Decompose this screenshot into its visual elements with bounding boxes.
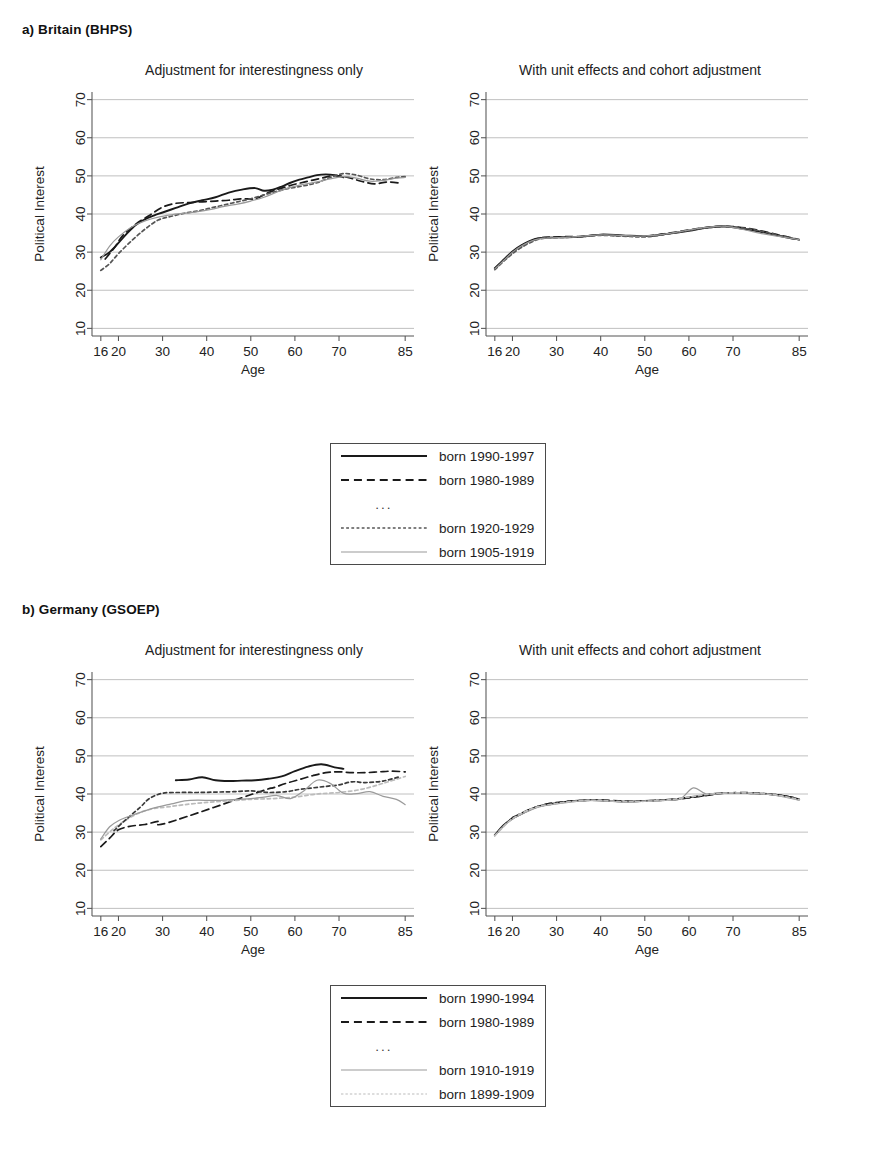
series-line [101, 776, 405, 839]
y-axis-label: Political Interest [426, 746, 441, 842]
x-axis-label: Age [241, 362, 265, 377]
y-tick-label: 50 [467, 168, 482, 183]
x-tick-label: 20 [505, 344, 520, 359]
legend-label: born 1910-1919 [439, 1063, 534, 1078]
legend-item[interactable]: born 1990-1994 [331, 986, 545, 1010]
x-tick-label: 85 [792, 344, 807, 359]
legend-item[interactable]: born 1899-1909 [331, 1082, 545, 1106]
x-tick-label: 85 [792, 924, 807, 939]
series-line [495, 793, 799, 836]
legend-item[interactable]: born 1980-1989 [331, 468, 545, 492]
x-tick-label: 60 [287, 344, 302, 359]
x-tick-label: 50 [637, 344, 652, 359]
y-tick-label: 40 [467, 206, 482, 221]
chart-canvas: 102030405060701620304050607085AgePolitic… [30, 82, 430, 382]
legend-label: born 1920-1929 [439, 521, 534, 536]
y-tick-label: 10 [467, 901, 482, 916]
series-line [101, 174, 344, 257]
legend-line-sample [341, 522, 427, 534]
x-tick-label: 50 [243, 924, 258, 939]
series-line [512, 792, 794, 817]
plot-germany-right: 102030405060701620304050607085AgePolitic… [424, 662, 824, 962]
y-tick-label: 30 [73, 245, 88, 260]
x-tick-label: 85 [398, 924, 413, 939]
x-tick-label: 16 [93, 344, 108, 359]
y-tick-label: 20 [467, 283, 482, 298]
x-tick-label: 85 [398, 344, 413, 359]
y-tick-label: 10 [73, 901, 88, 916]
x-tick-label: 70 [725, 344, 740, 359]
panel-title-britain-left: Adjustment for interestingness only [84, 62, 424, 78]
legend-line-sample [341, 1016, 427, 1028]
chart-canvas: 102030405060701620304050607085AgePolitic… [424, 662, 824, 962]
y-tick-label: 20 [73, 863, 88, 878]
series-line [495, 793, 799, 835]
series-line [176, 764, 344, 781]
x-axis-label: Age [241, 942, 265, 957]
legend-line-sample [341, 1064, 427, 1076]
x-tick-label: 50 [243, 344, 258, 359]
y-axis-label: Political Interest [426, 166, 441, 262]
legend-ellipsis: ... [341, 497, 427, 512]
x-tick-label: 40 [199, 344, 214, 359]
x-tick-label: 60 [681, 344, 696, 359]
legend-item[interactable]: born 1905-1919 [331, 540, 545, 564]
legend-line-sample [341, 1088, 427, 1100]
plot-germany-left: 102030405060701620304050607085AgePolitic… [30, 662, 430, 962]
panel-title-germany-left: Adjustment for interestingness only [84, 642, 424, 658]
legend-ellipsis: ... [341, 1039, 427, 1054]
y-tick-label: 40 [467, 786, 482, 801]
x-tick-label: 40 [199, 924, 214, 939]
y-tick-label: 30 [73, 825, 88, 840]
legend-item[interactable]: ... [331, 492, 545, 516]
legend-label: born 1990-1994 [439, 991, 534, 1006]
x-tick-label: 30 [549, 924, 564, 939]
chart-canvas: 102030405060701620304050607085AgePolitic… [30, 662, 430, 962]
y-tick-label: 70 [467, 92, 482, 107]
legend-item[interactable]: born 1920-1929 [331, 516, 545, 540]
x-tick-label: 16 [487, 924, 502, 939]
legend-britain: born 1990-1997born 1980-1989...born 1920… [330, 443, 546, 565]
x-axis-label: Age [635, 362, 659, 377]
series-line [114, 776, 401, 830]
legend-item[interactable]: born 1990-1997 [331, 444, 545, 468]
legend-label: born 1980-1989 [439, 1015, 534, 1030]
legend-line-sample [341, 992, 427, 1004]
y-tick-label: 50 [467, 748, 482, 763]
plot-britain-left: 102030405060701620304050607085AgePolitic… [30, 82, 430, 382]
y-tick-label: 40 [73, 206, 88, 221]
legend-line-sample [341, 546, 427, 558]
legend-germany: born 1990-1994born 1980-1989...born 1910… [330, 985, 546, 1107]
legend-label: born 1990-1997 [439, 449, 534, 464]
x-tick-label: 30 [549, 344, 564, 359]
x-tick-label: 20 [111, 924, 126, 939]
legend-item[interactable]: ... [331, 1034, 545, 1058]
x-tick-label: 60 [681, 924, 696, 939]
x-tick-label: 30 [155, 344, 170, 359]
legend-label: born 1899-1909 [439, 1087, 534, 1102]
x-tick-label: 70 [331, 924, 346, 939]
y-tick-label: 70 [73, 672, 88, 687]
x-tick-label: 20 [111, 344, 126, 359]
y-tick-label: 70 [73, 92, 88, 107]
x-tick-label: 60 [287, 924, 302, 939]
y-tick-label: 60 [467, 130, 482, 145]
section-heading-germany: b) Germany (GSOEP) [22, 602, 160, 617]
legend-label: born 1980-1989 [439, 473, 534, 488]
x-tick-label: 20 [505, 924, 520, 939]
x-tick-label: 16 [487, 344, 502, 359]
y-tick-label: 50 [73, 168, 88, 183]
legend-line-sample [341, 474, 427, 486]
y-axis-label: Political Interest [32, 746, 47, 842]
section-heading-britain: a) Britain (BHPS) [22, 22, 132, 37]
legend-item[interactable]: born 1980-1989 [331, 1010, 545, 1034]
panel-title-germany-right: With unit effects and cohort adjustment [470, 642, 810, 658]
y-tick-label: 50 [73, 748, 88, 763]
y-tick-label: 30 [467, 245, 482, 260]
plot-britain-right: 102030405060701620304050607085AgePolitic… [424, 82, 824, 382]
x-tick-label: 50 [637, 924, 652, 939]
y-axis-label: Political Interest [32, 166, 47, 262]
x-axis-label: Age [635, 942, 659, 957]
legend-item[interactable]: born 1910-1919 [331, 1058, 545, 1082]
y-tick-label: 20 [467, 863, 482, 878]
